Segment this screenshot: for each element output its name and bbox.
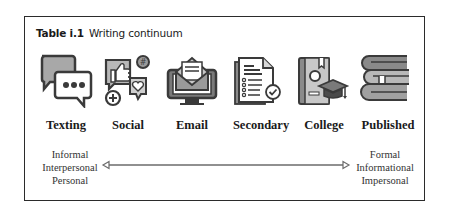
book-stack-icon <box>357 52 413 108</box>
social-media-icon: # <box>100 52 156 108</box>
table-caption: Table i.1Writing continuum <box>36 27 182 39</box>
table-title: Writing continuum <box>89 27 183 39</box>
continuum-left-interpersonal: Interpersonal <box>35 161 105 174</box>
diploma-graduation-icon <box>295 52 351 108</box>
email-monitor-icon <box>164 52 220 108</box>
continuum-right-impersonal: Impersonal <box>350 174 420 187</box>
label-email: Email <box>152 118 232 133</box>
document-checklist-icon <box>231 52 287 108</box>
svg-text:#: # <box>140 58 147 67</box>
double-arrow-icon <box>101 158 351 172</box>
continuum-right-informational: Informational <box>350 161 420 174</box>
continuum-right: Formal Informational Impersonal <box>350 148 420 187</box>
table-number: Table i.1 <box>36 27 84 39</box>
continuum-left-personal: Personal <box>35 174 105 187</box>
continuum-left: Informal Interpersonal Personal <box>35 148 105 187</box>
continuum-left-informal: Informal <box>35 148 105 161</box>
continuum-right-formal: Formal <box>350 148 420 161</box>
label-published: Published <box>348 118 428 133</box>
chat-bubbles-icon <box>38 52 94 108</box>
